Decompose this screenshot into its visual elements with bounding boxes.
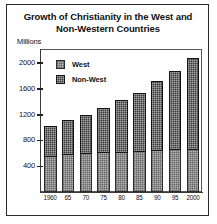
bar-segment-west (80, 154, 93, 192)
bar-segment-west (62, 155, 75, 192)
bar-segment-west (44, 157, 57, 192)
bar-segment-nonwest (151, 81, 164, 151)
x-tick-label-70: 70 (78, 194, 94, 201)
west-swatch-icon (56, 60, 65, 69)
bar-90[interactable] (151, 50, 164, 192)
legend-label-nonwest: Non-West (72, 75, 106, 84)
y-tick-label: 2000 (19, 58, 35, 67)
x-tick-label-80: 80 (114, 194, 130, 201)
bar-segment-nonwest (80, 115, 93, 154)
bar-segment-nonwest (169, 71, 182, 150)
chart-title-line-2: Non-Western Countries (56, 23, 160, 34)
x-tick-label-2000: 2000 (185, 194, 201, 201)
legend-item-west: West (56, 57, 126, 72)
y-axis-label: Millions (17, 37, 41, 46)
x-tick-label-65: 65 (60, 194, 76, 201)
chart-frame: Growth of Christianity in the West and N… (6, 4, 209, 216)
bar-segment-west (187, 150, 200, 192)
bar-segment-nonwest (97, 108, 110, 153)
x-tick-label-90: 90 (149, 194, 165, 201)
bar-segment-west (133, 152, 146, 192)
y-tick-label: 1600 (19, 84, 35, 93)
x-tick-label-85: 85 (131, 194, 147, 201)
x-tick-label-1960: 1960 (42, 194, 58, 201)
x-tick-label-75: 75 (96, 194, 112, 201)
bar-segment-west (97, 153, 110, 192)
bar-segment-nonwest (187, 58, 200, 150)
chart-legend: West Non-West (56, 57, 126, 87)
bar-segment-nonwest (44, 126, 57, 157)
bar-segment-nonwest (115, 100, 128, 152)
x-axis-line (40, 192, 203, 193)
chart-title: Growth of Christianity in the West and N… (15, 11, 201, 34)
nonwest-swatch-icon (56, 75, 65, 84)
bar-segment-west (151, 151, 164, 192)
legend-item-nonwest: Non-West (56, 72, 126, 87)
bar-segment-nonwest (62, 120, 75, 155)
bar-85[interactable] (133, 50, 146, 192)
chart-title-line-1: Growth of Christianity in the West and (24, 11, 193, 22)
bar-segment-west (115, 153, 128, 192)
x-tick-label-95: 95 (167, 194, 183, 201)
bar-2000[interactable] (187, 50, 200, 192)
bar-segment-nonwest (133, 93, 146, 152)
bar-95[interactable] (169, 50, 182, 192)
y-tick-label: 1200 (19, 110, 35, 119)
bar-segment-west (169, 150, 182, 192)
bar-1960[interactable] (44, 50, 57, 192)
legend-label-west: West (72, 60, 89, 69)
x-axis-tick-labels: 1960657075808590952000 (41, 194, 202, 201)
y-tick-label: 400 (23, 161, 35, 170)
y-tick-label: 800 (23, 135, 35, 144)
